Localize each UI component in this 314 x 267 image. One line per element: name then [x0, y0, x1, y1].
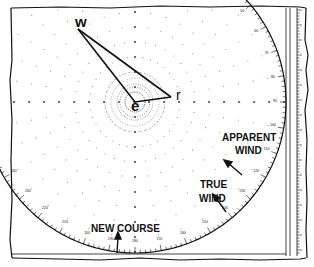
svg-text:190: 190	[108, 237, 114, 241]
svg-text:180: 180	[132, 239, 138, 243]
point-w-label: w	[75, 14, 87, 29]
svg-text:50: 50	[240, 9, 244, 13]
svg-text:200: 200	[84, 231, 90, 235]
true-wind-label-line1: TRUE	[200, 180, 227, 190]
distance-scale	[297, 10, 302, 253]
svg-text:80: 80	[271, 75, 275, 79]
svg-text:120: 120	[253, 169, 259, 173]
vector-w-e	[78, 29, 135, 102]
point-e-label: e	[131, 98, 139, 113]
svg-text:230: 230	[25, 189, 31, 193]
apparent-wind-label-line1: APPARENT	[222, 133, 276, 143]
svg-text:60: 60	[254, 29, 258, 33]
svg-text:100: 100	[270, 123, 276, 127]
bearing-scale: 4050607080901001101201301401501601701801…	[0, 0, 286, 253]
svg-text:130: 130	[239, 189, 245, 193]
svg-text:160: 160	[180, 231, 186, 235]
wind-triangle	[78, 29, 171, 102]
svg-text:170: 170	[156, 237, 162, 241]
svg-text:210: 210	[62, 220, 68, 224]
svg-text:220: 220	[42, 206, 48, 210]
apparent-wind-label-line2: WIND	[235, 146, 262, 156]
point-r-label: r	[176, 88, 181, 102]
new-course-label: NEW COURSE	[91, 224, 160, 234]
true-wind-label-line2: WIND	[199, 194, 226, 204]
maneuvering-board: 4050607080901001101201301401501601701801…	[0, 0, 314, 267]
svg-text:240: 240	[11, 169, 17, 173]
svg-text:150: 150	[202, 220, 208, 224]
svg-text:70: 70	[265, 51, 269, 55]
svg-text:110: 110	[264, 147, 270, 151]
svg-text:90: 90	[273, 99, 277, 103]
vector-e-r	[135, 97, 171, 102]
